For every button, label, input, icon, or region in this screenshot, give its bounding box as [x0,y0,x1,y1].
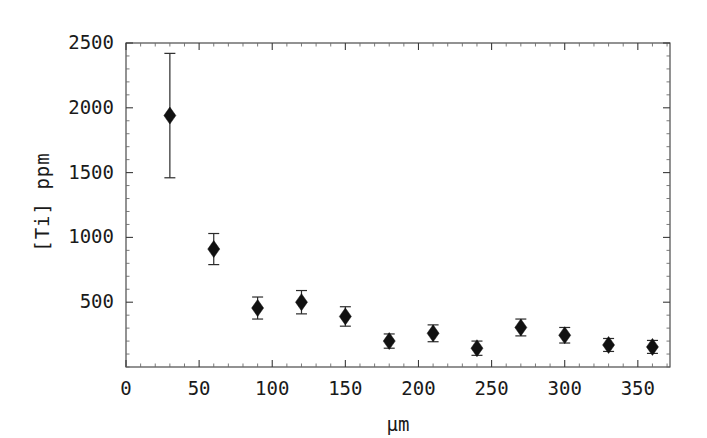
marker-diamond [295,294,307,311]
data-point [383,333,395,350]
data-point [559,327,571,344]
data-series-group [164,53,659,356]
data-point [339,307,351,326]
marker-diamond [559,327,571,344]
chart-figure: [Ti] ppm μm 5001000150020002500 05010015… [0,0,707,438]
marker-diamond [164,107,176,124]
marker-diamond [339,308,351,325]
axis-frame [126,43,670,367]
data-point [252,297,264,319]
marker-diamond [383,333,395,350]
data-point [208,234,220,265]
data-point [471,340,483,357]
marker-diamond [208,241,220,258]
data-point [515,319,527,336]
data-point [646,338,658,355]
data-point [164,53,176,177]
marker-diamond [252,300,264,317]
marker-diamond [515,319,527,336]
plot-canvas [0,0,707,438]
axis-ticks [126,43,670,367]
axis-box [126,43,670,367]
data-point [603,336,615,353]
marker-diamond [471,340,483,357]
data-point [295,291,307,314]
data-point [427,325,439,342]
marker-diamond [427,325,439,342]
